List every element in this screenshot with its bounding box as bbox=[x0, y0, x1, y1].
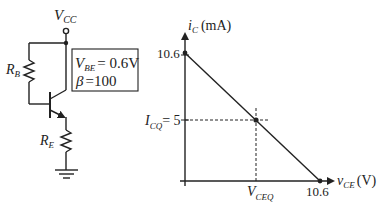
vceq-label: VCEQ bbox=[247, 184, 274, 202]
vbe-param: VBE= 0.6V bbox=[75, 55, 139, 73]
rb-resistor bbox=[24, 60, 34, 82]
beta-param: β=100 bbox=[75, 73, 116, 89]
rb-label: RB bbox=[5, 62, 21, 79]
vcc-terminal bbox=[63, 28, 68, 33]
circuit bbox=[24, 28, 138, 178]
figure: VCC RB RE VBE= 0.6V β=100 iC(mA) 10.6 IC… bbox=[0, 0, 381, 209]
y-intercept-point bbox=[183, 51, 188, 56]
y-intercept-label: 10.6 bbox=[157, 46, 180, 61]
x-axis-label: vCE(V) bbox=[337, 173, 377, 190]
icq-label: ICQ= 5 bbox=[144, 113, 181, 131]
re-label: RE bbox=[39, 133, 55, 150]
re-resistor bbox=[61, 130, 71, 152]
load-line-chart bbox=[180, 34, 333, 186]
q-point bbox=[253, 117, 258, 122]
ground-icon bbox=[55, 170, 78, 178]
y-axis-label: iC(mA) bbox=[188, 18, 232, 35]
load-line bbox=[185, 53, 320, 181]
x-intercept-point bbox=[318, 179, 323, 184]
x-intercept-label: 10.6 bbox=[306, 184, 329, 199]
vcc-label: VCC bbox=[54, 7, 77, 25]
